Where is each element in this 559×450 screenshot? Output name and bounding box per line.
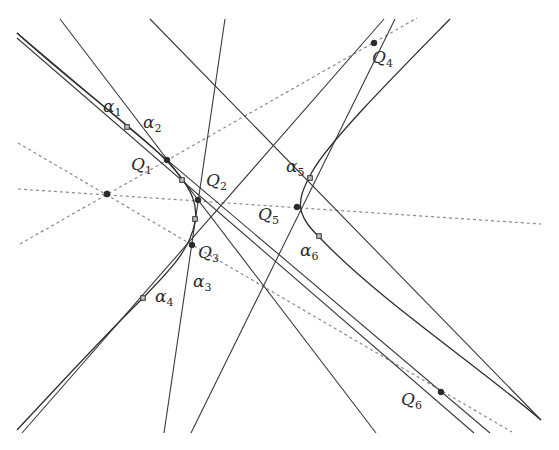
point-Q2 <box>195 197 201 203</box>
Q-symbol: Q <box>131 154 145 174</box>
Q-label-4: Q4 <box>372 47 393 70</box>
dashed-line-1 <box>20 18 417 244</box>
Q-label-1: Q1 <box>131 154 152 177</box>
Q-label-6: Q6 <box>401 389 422 412</box>
alpha-symbol: α <box>143 112 155 132</box>
labels-group: Q1Q2Q3Q4Q5Q6α1α2α3α4α5α6 <box>103 47 422 412</box>
alpha-symbol: α <box>193 271 205 291</box>
Q-symbol: Q <box>198 242 212 262</box>
dashed-lines-group <box>18 18 541 432</box>
point-alpha4 <box>141 296 146 301</box>
point-Q5 <box>294 204 300 210</box>
Q-label-2: Q2 <box>206 170 227 193</box>
point-alpha1 <box>125 125 130 130</box>
alpha-subscript: 5 <box>297 166 304 179</box>
tangent-lines-group <box>17 19 541 433</box>
hub-point <box>104 191 110 197</box>
tangent-line-7 <box>17 38 474 433</box>
alpha-subscript: 2 <box>154 122 161 135</box>
point-Q1 <box>164 157 170 163</box>
Q-symbol: Q <box>401 389 415 409</box>
alpha-subscript: 4 <box>166 296 173 309</box>
Q-subscript: 6 <box>415 399 422 412</box>
point-alpha2 <box>180 178 185 183</box>
point-Q6 <box>438 389 444 395</box>
alpha-symbol: α <box>155 286 167 306</box>
alpha-subscript: 3 <box>204 281 211 294</box>
tangent-line-5 <box>191 19 395 433</box>
Q-subscript: 5 <box>272 214 279 227</box>
point-alpha3 <box>193 217 198 222</box>
tangent-line-6 <box>22 19 384 433</box>
Q-label-3: Q3 <box>198 242 219 265</box>
alpha-symbol: α <box>103 96 115 116</box>
Q-symbol: Q <box>258 204 272 224</box>
alpha-label-2: α2 <box>143 112 161 135</box>
Q-subscript: 2 <box>220 180 227 193</box>
dashed-line-2 <box>18 189 541 224</box>
Q-subscript: 3 <box>212 252 219 265</box>
alpha-label-5: α5 <box>286 156 304 179</box>
Q-label-5: Q5 <box>258 204 279 227</box>
Q-subscript: 4 <box>386 57 393 70</box>
alpha-label-4: α4 <box>155 286 173 309</box>
Q-symbol: Q <box>206 170 220 190</box>
alpha-symbol: α <box>286 156 298 176</box>
point-Q3 <box>189 242 195 248</box>
point-alpha5 <box>308 176 313 181</box>
hyperbola-right-branch <box>300 19 541 420</box>
tangent-line-2 <box>60 19 376 433</box>
point-Q4 <box>371 40 377 46</box>
alpha-subscript: 6 <box>311 250 318 263</box>
Q-subscript: 1 <box>145 164 152 177</box>
alpha-symbol: α <box>300 240 312 260</box>
hyperbola-curves-group <box>17 19 541 430</box>
alpha-label-3: α3 <box>193 271 211 294</box>
alpha-label-6: α6 <box>300 240 318 263</box>
hyperbola-tangent-diagram: Q1Q2Q3Q4Q5Q6α1α2α3α4α5α6 <box>0 0 559 450</box>
alpha-subscript: 1 <box>114 106 121 119</box>
alpha-label-1: α1 <box>103 96 121 119</box>
Q-symbol: Q <box>372 47 386 67</box>
point-alpha6 <box>317 234 322 239</box>
